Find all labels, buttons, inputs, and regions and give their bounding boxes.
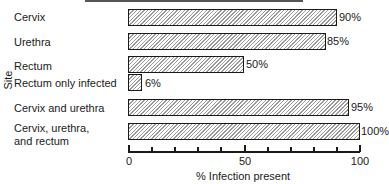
bar-cervix-urethra <box>128 99 349 116</box>
category-label-urethra: Urethra <box>14 36 51 49</box>
value-label-cervix: 90% <box>339 11 361 24</box>
x-tick-50 <box>244 145 246 152</box>
category-label-rectum-only: Rectum only infected <box>14 77 117 90</box>
x-tick-30 <box>197 147 199 152</box>
x-tick-100 <box>359 145 361 152</box>
bar-urethra <box>128 33 326 50</box>
x-tick-20 <box>174 147 176 152</box>
x-tick-90 <box>336 147 338 152</box>
x-tick-40 <box>220 147 222 152</box>
x-tick-label-100: 100 <box>345 155 375 167</box>
value-label-rectum-only: 6% <box>145 77 161 90</box>
bar-rectum <box>128 56 244 73</box>
x-tick-10 <box>151 147 153 152</box>
x-tick-60 <box>267 147 269 152</box>
category-label-cervix: Cervix <box>14 11 45 24</box>
y-axis-label: Site <box>2 66 14 94</box>
x-tick-0 <box>128 145 130 152</box>
x-tick-label-0: 0 <box>114 155 144 167</box>
category-label-rectum: Rectum <box>14 60 52 73</box>
category-label-all-sites-line1: Cervix, urethra, <box>14 122 89 135</box>
x-axis-label: % Infection present <box>196 170 290 182</box>
value-label-all-sites: 100% <box>361 125 389 138</box>
x-tick-label-50: 50 <box>230 155 260 167</box>
bar-cervix <box>128 9 337 26</box>
bar-all-sites <box>128 123 360 140</box>
x-tick-80 <box>313 147 315 152</box>
category-label-all-sites-line2: and rectum <box>14 135 69 148</box>
top-border-line <box>85 0 303 2</box>
value-label-cervix-urethra: 95% <box>351 101 373 114</box>
value-label-urethra: 85% <box>327 35 349 48</box>
value-label-rectum: 50% <box>246 58 268 71</box>
category-label-cervix-urethra: Cervix and urethra <box>14 102 105 115</box>
bar-rectum-only <box>128 74 142 91</box>
x-tick-70 <box>290 147 292 152</box>
